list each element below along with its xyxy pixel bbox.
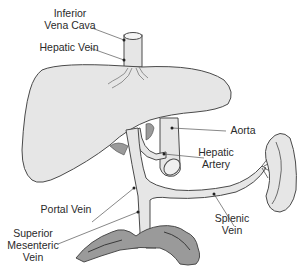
hepatic-portal-diagram: Inferior Vena Cava Hepatic Vein Aorta He… bbox=[0, 0, 303, 271]
label-hepatic-artery: Hepatic Artery bbox=[192, 146, 240, 170]
label-superior-mesenteric-vein: Superior Mesenteric Vein bbox=[2, 227, 64, 263]
label-splenic-vein-line1: Splenic bbox=[210, 212, 254, 224]
label-ivc-line2: Vena Cava bbox=[38, 19, 102, 31]
liver-underside-shadow bbox=[146, 124, 154, 141]
gallbladder-shadow bbox=[110, 143, 128, 155]
label-aorta-line1: Aorta bbox=[226, 124, 260, 136]
label-aorta: Aorta bbox=[226, 124, 260, 136]
label-smv-line2: Mesenteric bbox=[2, 239, 64, 251]
label-splenic-vein-line2: Vein bbox=[210, 224, 254, 236]
label-hepatic-vein: Hepatic Vein bbox=[34, 41, 104, 53]
label-smv-line3: Vein bbox=[2, 251, 64, 263]
label-hepatic-artery-line2: Artery bbox=[192, 158, 240, 170]
label-hepatic-vein-line1: Hepatic Vein bbox=[34, 41, 104, 53]
label-inferior-vena-cava: Inferior Vena Cava bbox=[38, 7, 102, 31]
label-portal-vein-line1: Portal Vein bbox=[36, 203, 96, 215]
label-smv-line1: Superior bbox=[2, 227, 64, 239]
intestine-shape bbox=[76, 226, 200, 265]
label-ivc-line1: Inferior bbox=[38, 7, 102, 19]
label-splenic-vein: Splenic Vein bbox=[210, 212, 254, 236]
label-portal-vein: Portal Vein bbox=[36, 203, 96, 215]
label-hepatic-artery-line1: Hepatic bbox=[192, 146, 240, 158]
inferior-vena-cava-shape bbox=[124, 33, 142, 68]
